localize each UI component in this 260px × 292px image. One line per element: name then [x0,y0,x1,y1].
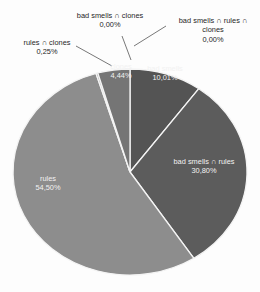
leader-lines-group [76,26,166,66]
pie-chart-figure: bad smells ∩ clones 0,00% bad smells ∩ r… [0,0,260,292]
leader-line-bad-smells-clones [122,36,131,60]
leader-line-rules-clones [76,46,112,66]
leader-line-bad-smells-rules-clones [134,26,166,46]
pie-slices-group [13,69,247,275]
pie-chart-canvas [0,0,260,292]
